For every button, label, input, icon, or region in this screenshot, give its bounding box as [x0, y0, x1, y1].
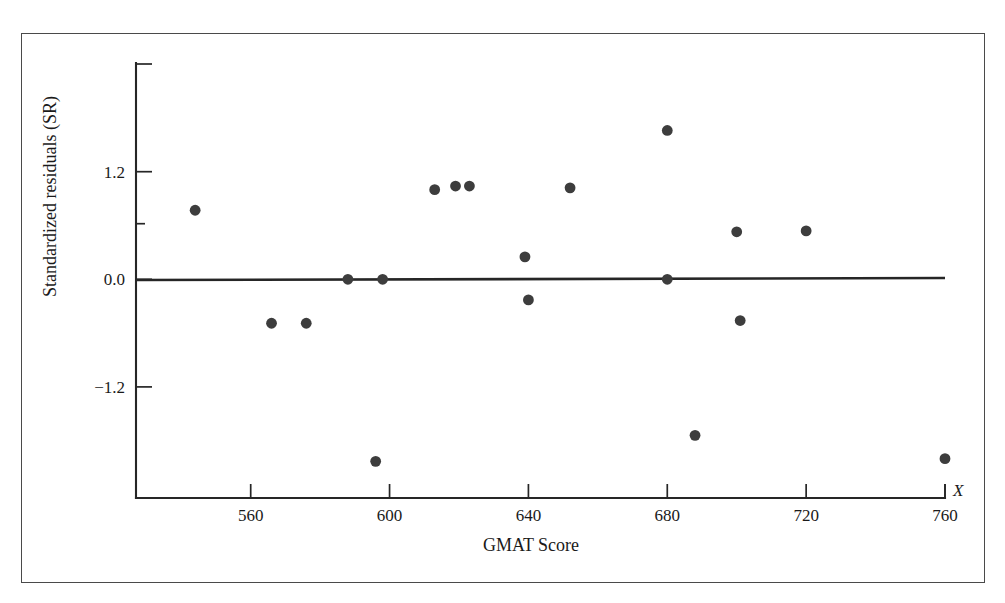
data-point — [735, 315, 746, 326]
x-tick-marks — [251, 484, 945, 498]
data-point — [190, 205, 201, 216]
x-tick-label-760: 760 — [932, 506, 958, 525]
data-point — [523, 295, 534, 306]
x-tick-label-640: 640 — [516, 506, 542, 525]
data-point — [343, 274, 354, 285]
figure-page: 1.20.0−1.2 560600640680720760 X GMAT Sco… — [0, 0, 1005, 603]
y-tick-label-0.0: 0.0 — [104, 270, 125, 289]
data-point — [377, 274, 388, 285]
x-axis-title: GMAT Score — [483, 535, 579, 555]
data-point — [450, 181, 461, 192]
zero-reference-line — [136, 278, 945, 280]
data-point — [464, 181, 475, 192]
x-tick-labels: 560600640680720760 — [238, 506, 958, 525]
x-tick-label-560: 560 — [238, 506, 264, 525]
data-point — [565, 182, 576, 193]
data-point — [662, 125, 673, 136]
x-axis-group: 560600640680720760 — [136, 484, 958, 525]
data-point — [940, 453, 951, 464]
y-tick-labels: 1.20.0−1.2 — [94, 163, 125, 397]
y-tick-label-−1.2: −1.2 — [94, 378, 125, 397]
data-point — [731, 226, 742, 237]
data-point — [370, 456, 381, 467]
data-point — [266, 318, 277, 329]
data-point — [429, 184, 440, 195]
y-axis-title: Standardized residuals (SR) — [40, 27, 61, 367]
data-point-group — [190, 125, 951, 467]
data-point — [662, 274, 673, 285]
x-tick-label-600: 600 — [377, 506, 403, 525]
scatter-plot: 1.20.0−1.2 560600640680720760 X GMAT Sco… — [0, 0, 1005, 603]
x-tick-label-720: 720 — [793, 506, 819, 525]
x-axis-variable-symbol: X — [952, 481, 964, 500]
data-point — [801, 225, 812, 236]
y-tick-label-1.2: 1.2 — [104, 163, 125, 182]
x-tick-label-680: 680 — [655, 506, 681, 525]
data-point — [690, 430, 701, 441]
data-point — [301, 318, 312, 329]
data-point — [520, 251, 531, 262]
